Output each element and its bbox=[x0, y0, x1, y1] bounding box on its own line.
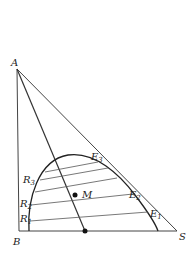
label-r1: R1 bbox=[19, 213, 32, 226]
phase-diagram: A B S M R3 R2 R1 E3 E2 E1 bbox=[0, 0, 193, 257]
mixture-point-m bbox=[73, 193, 78, 198]
label-e2: E2 bbox=[128, 189, 141, 202]
label-r3: R3 bbox=[22, 174, 36, 187]
tie-line-1 bbox=[30, 212, 148, 221]
label-e1: E1 bbox=[149, 208, 162, 221]
label-s: S bbox=[179, 231, 186, 242]
tie-line-5 bbox=[45, 162, 98, 172]
tie-line-4 bbox=[40, 168, 108, 180]
label-a: A bbox=[10, 57, 18, 68]
label-m: M bbox=[81, 189, 93, 200]
edge-as bbox=[17, 69, 177, 231]
edge-ab bbox=[17, 69, 19, 231]
base-point bbox=[83, 229, 88, 234]
label-b: B bbox=[12, 236, 20, 247]
tie-line-3 bbox=[35, 178, 117, 192]
